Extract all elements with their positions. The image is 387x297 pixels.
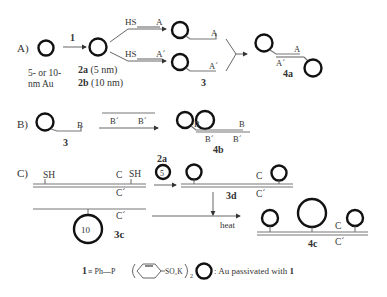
conjugate-label-3c: 3c xyxy=(114,228,125,240)
panel-a-label: A) xyxy=(17,42,29,55)
panel-c: C) SH C SH C´ C´ 10 3c 2a 5 C 3d C´ xyxy=(17,153,368,249)
product-comp-2: B´ xyxy=(233,134,242,144)
seq-c-prime-bottom: C´ xyxy=(116,211,126,221)
legend-definition: ≡ Ph—P xyxy=(88,267,116,276)
final-label-4c: 4c xyxy=(308,238,318,249)
product-seq-b-1: B xyxy=(194,119,200,129)
thiol-bottom: HS xyxy=(125,49,137,59)
thiol-1: SH xyxy=(43,170,55,180)
product-particle-left xyxy=(177,112,193,128)
branch-arrow-top xyxy=(110,29,166,42)
conjugate-seq-a-prime: A´ xyxy=(209,61,218,71)
start-caption-line2: nm Au xyxy=(28,79,54,89)
conjugate-label-3: 3 xyxy=(201,77,206,88)
intermediate-particle-left xyxy=(187,165,202,180)
dimer-particle-right xyxy=(305,60,322,77)
dimer-particle-left xyxy=(256,35,273,52)
product-label-4b: 4b xyxy=(213,144,224,155)
conjugate-particle-top xyxy=(172,22,188,38)
thiol-top: HS xyxy=(125,17,137,27)
seq-c: C xyxy=(116,170,122,180)
reaction-scheme: A) 5- or 10- nm Au 1 2a (5 nm) 2b (10 nm… xyxy=(0,0,387,297)
template-seq-1: B´ xyxy=(110,116,119,126)
start-caption-line1: 5- or 10- xyxy=(28,68,61,78)
legend-bracket-left xyxy=(133,264,136,278)
conjugate-label-3: 3 xyxy=(63,137,68,148)
dimer-seq-a-prime: A´ xyxy=(276,58,285,68)
passivated-nanoparticle xyxy=(90,39,107,56)
conjugate-seq-b: B xyxy=(77,120,83,130)
product-2b-label: 2b (10 nm) xyxy=(78,77,123,89)
legend-compound-number: 1 xyxy=(82,265,87,276)
intermediate-seq-c: C xyxy=(256,171,262,181)
final-particle-center xyxy=(298,199,326,227)
dimer-seq-a: A xyxy=(294,44,301,54)
particle-5nm-label: 5 xyxy=(160,169,164,178)
reagent-label-2a: 2a xyxy=(157,153,167,164)
final-particle-right xyxy=(347,210,363,226)
legend: 1 ≡ Ph—P SO₃K 2 : Au passivated with 1 xyxy=(82,264,295,280)
conjugate-particle xyxy=(37,114,54,131)
seq-a-prime: A´ xyxy=(156,49,166,59)
legend-bracket-right xyxy=(185,264,188,278)
combine-lines xyxy=(226,39,236,71)
intermediate-seq-c-prime: C´ xyxy=(256,189,266,199)
gold-nanoparticle xyxy=(39,41,54,56)
heat-condition: heat xyxy=(220,220,235,230)
panel-b-label: B) xyxy=(17,118,28,131)
intermediate-particle-right xyxy=(272,166,287,181)
intermediate-label-3d: 3d xyxy=(226,190,237,201)
panel-c-label: C) xyxy=(17,167,28,180)
conjugate-particle-bottom xyxy=(172,54,188,70)
product-seq-b-2: B xyxy=(239,119,245,129)
particle-10nm-label: 10 xyxy=(81,225,91,235)
product-comp-1: B´ xyxy=(205,134,214,144)
final-particle-left xyxy=(262,210,278,226)
dimer-label-4a: 4a xyxy=(283,68,293,79)
thiol-2: SH xyxy=(129,169,141,179)
panel-a: A) 5- or 10- nm Au 1 2a (5 nm) 2b (10 nm… xyxy=(17,17,322,89)
product-2a-label: 2a (5 nm) xyxy=(78,64,117,76)
legend-subscript: 2 xyxy=(190,273,193,279)
final-seq-c: C xyxy=(335,221,341,231)
final-seq-c-prime: C´ xyxy=(335,237,345,247)
legend-sulfonate: SO₃K xyxy=(165,267,183,276)
legend-circle-meaning: : Au passivated with 1 xyxy=(214,266,295,276)
legend-particle-icon xyxy=(197,264,212,279)
template-seq-2: B´ xyxy=(138,116,147,126)
reagent-label: 1 xyxy=(70,32,75,43)
seq-c-prime-top: C´ xyxy=(116,188,126,198)
panel-b: B) B 3 B´ B´ B B B´ B´ 4b xyxy=(17,111,250,155)
conjugate-seq-a: A xyxy=(211,28,218,38)
seq-a: A xyxy=(156,17,163,27)
